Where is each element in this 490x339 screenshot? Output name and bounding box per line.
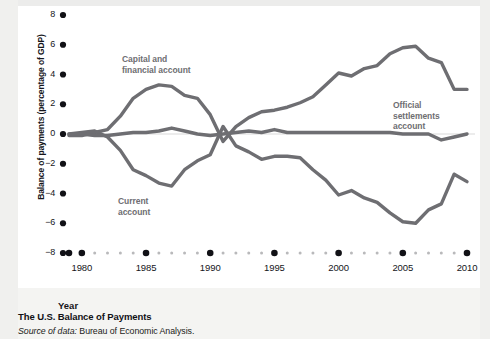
x-axis-minor-tick-dot: [222, 252, 225, 255]
x-axis-minor-tick-dot: [350, 252, 353, 255]
figure-right-edge: [480, 0, 490, 339]
y-axis-tick-dot: [60, 71, 66, 77]
y-axis-tick-label: 8: [33, 9, 55, 19]
x-axis-minor-tick-dot: [93, 252, 96, 255]
y-axis-tick-label: −6: [33, 217, 55, 227]
x-axis-major-tick-dot: [79, 250, 86, 257]
y-axis-tick-dot: [60, 161, 66, 167]
x-axis-minor-tick-dot: [234, 252, 237, 255]
x-axis-minor-tick-dot: [183, 252, 186, 255]
x-axis-tick-label: 1995: [252, 262, 296, 273]
x-axis-minor-tick-dot: [453, 252, 456, 255]
y-axis-tick-dot: [60, 42, 66, 48]
y-axis-tick-dot: [60, 101, 66, 107]
series-label-current-account: Current account: [118, 196, 188, 217]
series-label-official-line2: settlements: [393, 111, 440, 121]
y-axis-tick-label: 6: [33, 39, 55, 49]
x-axis-tick-label: 2005: [381, 262, 425, 273]
caption-source-lead: Source of data:: [18, 326, 77, 336]
x-axis-minor-tick-dot: [260, 252, 263, 255]
x-axis-tick-label: 2000: [317, 262, 361, 273]
y-axis-tick-dot: [60, 190, 66, 196]
x-axis-minor-tick-dot: [376, 252, 379, 255]
y-axis-tick-dot: [60, 250, 66, 256]
x-axis-minor-tick-dot: [286, 252, 289, 255]
x-axis-major-tick-dot: [400, 250, 407, 257]
series-label-official-line3: account: [393, 121, 425, 131]
y-axis-tick-dot: [60, 220, 66, 226]
x-axis-major-tick-dot: [143, 250, 150, 257]
caption-source-body: Bureau of Economic Analysis.: [77, 326, 194, 336]
series-label-official-line1: Official: [393, 100, 421, 110]
y-axis-tick-dot: [60, 12, 66, 18]
y-axis-tick-label: 4: [33, 69, 55, 79]
figure-container: Balance of payments (percentage of GDP) …: [0, 0, 490, 339]
y-axis-title: Balance of payments (percentage of GDP): [36, 2, 46, 232]
y-axis-tick-label: −8: [33, 247, 55, 257]
x-axis-minor-tick-dot: [247, 252, 250, 255]
y-axis-tick-label: 2: [33, 98, 55, 108]
caption-source: Source of data: Bureau of Economic Analy…: [18, 326, 470, 336]
x-axis-major-tick-dot: [464, 250, 471, 257]
x-axis-minor-tick-dot: [170, 252, 173, 255]
x-axis-tick-label: 1990: [188, 262, 232, 273]
x-axis-tick-label: 1985: [124, 262, 168, 273]
x-axis-minor-tick-dot: [132, 252, 135, 255]
series-label-current-line2: account: [118, 207, 150, 217]
x-axis-minor-tick-dot: [324, 252, 327, 255]
y-axis-tick-label: −2: [33, 158, 55, 168]
x-axis-minor-tick-dot: [157, 252, 160, 255]
x-axis-major-tick-dot: [335, 250, 342, 257]
figure-left-edge: [0, 0, 18, 339]
x-axis-title: Year: [58, 300, 78, 311]
series-label-official-settlements-account: Official settlements account: [393, 100, 465, 132]
series-label-capital-line2: financial account: [122, 65, 191, 75]
line-chart: [18, 6, 480, 288]
y-axis-tick-dot: [60, 131, 66, 137]
y-axis-tick-label: 0: [33, 128, 55, 138]
series-label-capital-line1: Capital and: [122, 54, 167, 64]
caption: The U.S. Balance of Payments Source of d…: [18, 311, 470, 336]
x-axis-minor-tick-dot: [196, 252, 199, 255]
y-axis-tick-label: −4: [33, 188, 55, 198]
x-axis-minor-tick-dot: [106, 252, 109, 255]
series-label-current-line1: Current: [118, 196, 148, 206]
x-axis-minor-tick-dot: [414, 252, 417, 255]
x-axis-minor-tick-dot: [119, 252, 122, 255]
x-axis-tick-label: 1980: [60, 262, 104, 273]
x-axis-minor-tick-dot: [363, 252, 366, 255]
series-label-capital-financial-account: Capital and financial account: [122, 54, 218, 75]
x-axis-minor-tick-dot: [299, 252, 302, 255]
x-axis-minor-tick-dot: [66, 250, 73, 257]
plot-area: Balance of payments (percentage of GDP) …: [18, 6, 480, 288]
caption-title: The U.S. Balance of Payments: [18, 311, 470, 322]
x-axis-minor-tick-dot: [311, 252, 314, 255]
x-axis-minor-tick-dot: [440, 252, 443, 255]
x-axis-minor-tick-dot: [427, 252, 430, 255]
x-axis-major-tick-dot: [207, 250, 214, 257]
x-axis-major-tick-dot: [271, 250, 278, 257]
x-axis-minor-tick-dot: [388, 252, 391, 255]
x-axis-tick-label: 2010: [445, 262, 489, 273]
